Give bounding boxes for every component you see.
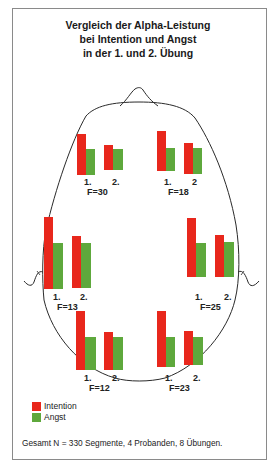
legend-label-angst: Angst [44,412,66,422]
footnote: Gesamt N = 330 Segmente, 4 Probanden, 8 … [22,438,222,448]
x-label-1: 1. [84,177,92,187]
x-label-1: 1. [195,292,203,302]
x-label-2: 2. [112,373,120,383]
x-label-2: 2. [224,292,232,302]
bar-angst-2 [113,149,123,170]
legend-label-intention: Intention [44,401,77,411]
x-label-2: 2. [80,292,88,302]
f-value-label: F=13 [57,302,78,312]
bar-intention-1 [77,134,86,175]
legend-swatch-intention [32,402,41,411]
x-label-1: 1. [53,292,61,302]
x-label-2: 2. [193,373,201,383]
bar-intention-1 [157,131,166,171]
bar-angst-1 [196,243,206,277]
bar-intention-1 [76,311,85,370]
bar-intention-2 [184,143,193,174]
bar-angst-1 [53,243,63,289]
legend-swatch-angst [32,413,41,422]
f-value-label: F=30 [87,187,108,197]
head-outline-icon [0,0,276,475]
bar-intention-1 [44,217,53,289]
f-value-label: F=12 [89,383,110,393]
bar-angst-2 [81,243,91,288]
bar-intention-1 [187,218,196,277]
x-label-2: 2 [192,177,197,187]
f-value-label: F=25 [200,302,221,312]
bar-angst-1 [86,149,95,175]
bar-intention-2 [184,331,193,365]
bar-angst-2 [193,337,203,365]
bar-intention-2 [215,235,224,277]
bar-angst-1 [85,337,96,370]
x-label-2: 2. [112,177,120,187]
x-label-1: 1. [165,373,173,383]
bar-intention-1 [157,311,166,367]
f-value-label: F=18 [168,187,189,197]
bar-angst-2 [113,337,123,370]
x-label-1: 1. [164,177,172,187]
bar-intention-2 [104,145,113,170]
x-label-1: 1. [84,373,92,383]
bar-angst-1 [166,337,175,367]
bar-angst-1 [166,148,175,171]
bar-intention-2 [104,332,113,370]
f-value-label: F=23 [169,383,190,393]
bar-angst-2 [224,242,234,277]
bar-intention-2 [72,236,81,288]
bar-angst-2 [193,148,202,174]
